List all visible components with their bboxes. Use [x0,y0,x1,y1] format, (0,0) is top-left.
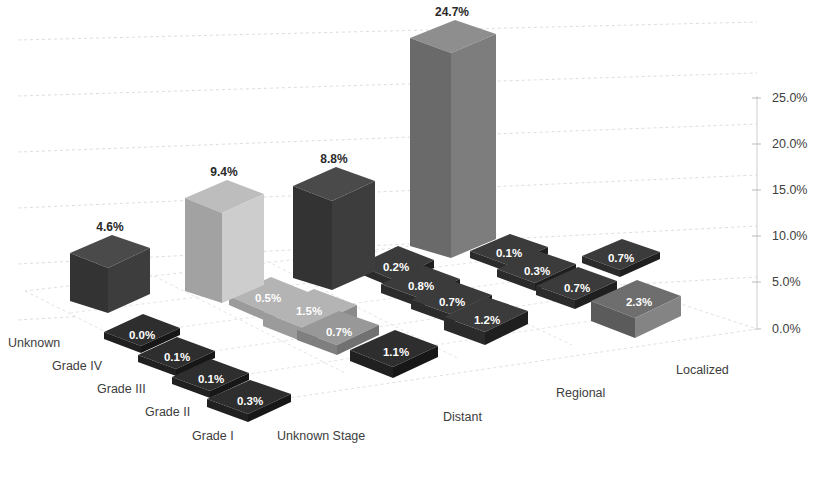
value-tick-20: 20.0% [772,137,807,151]
grade-axis-label-grade-iv: Grade IV [52,359,103,373]
bar-label-unknown-unknown-stage-tall: 4.6% [96,220,124,234]
bar-label-grade-iv-distant: 0.5% [255,292,281,304]
value-tick-5: 5.0% [772,275,801,289]
bar-label-grade-iv-unknown-stage-tall: 9.4% [210,165,238,179]
bar-label-grade-iii-regional: 0.7% [439,296,465,308]
value-tick-0: 0.0% [772,322,801,336]
bar-label-grade-iii-localized: 0.7% [564,282,590,294]
bar-label-grade-iii-distant: 1.5% [296,305,322,317]
bar-label-grade-i-regional: 0.1% [198,373,224,385]
chart-canvas: 25.0% 20.0% 15.0% 10.0% 5.0% 0.0% Unknow… [0,0,817,480]
value-tick-15: 15.0% [772,183,807,197]
bar-label-grade-i-distant: 0.1% [164,351,190,363]
grade-axis-label-grade-iii: Grade III [97,382,146,396]
three-d-bar-chart: 25.0% 20.0% 15.0% 10.0% 5.0% 0.0% Unknow… [0,0,817,480]
bar-grade-iii-unknown-stage-tall[interactable]: 8.8% [293,152,375,290]
stage-axis-label-distant: Distant [443,410,482,424]
grade-axis-label-grade-ii: Grade II [145,405,190,419]
bar-label-grade-i-localized: 0.3% [237,395,263,407]
value-tick-10: 10.0% [772,229,807,243]
bar-label-grade-ii-unknown-stage-tall: 24.7% [435,5,469,19]
bar-label-grade-iii-unknown-stage-tall: 8.8% [320,152,348,166]
bar-label-grade-ii-distant: 0.7% [326,326,352,338]
bar-label-grade-iv-regional: 0.8% [408,280,434,292]
bar-label-unknown-regional: 0.1% [496,247,522,259]
bar-label-grade-ii-localized: 2.3% [626,296,652,308]
stage-axis-label-regional: Regional [556,386,605,400]
grade-axis-label-unknown: Unknown [8,336,60,350]
bar-unknown-localized[interactable]: 0.7% [582,239,660,277]
bar-grade-iv-unknown-stage-tall[interactable]: 9.4% [185,165,264,303]
grade-axis-label-grade-i: Grade I [192,429,234,443]
bar-label-unknown-localized: 0.7% [608,252,634,264]
stage-axis-label-localized: Localized [676,363,729,377]
bar-label-grade-ii-regional: 1.2% [474,314,500,326]
bar-label-grade-ii-unknown-stage: 1.1% [383,346,409,358]
bar-grade-ii-unknown-stage-tall[interactable]: 24.7% [410,5,496,258]
bar-unknown-unknown-stage-tall[interactable]: 4.6% [70,220,150,313]
bar-label-grade-i-unknown-stage: 0.0% [129,329,155,341]
bar-label-unknown-distant: 0.2% [383,261,409,273]
bar-label-grade-iv-localized: 0.3% [524,265,550,277]
stage-axis-label-unknown-stage: Unknown Stage [277,429,365,443]
value-tick-25: 25.0% [772,91,807,105]
